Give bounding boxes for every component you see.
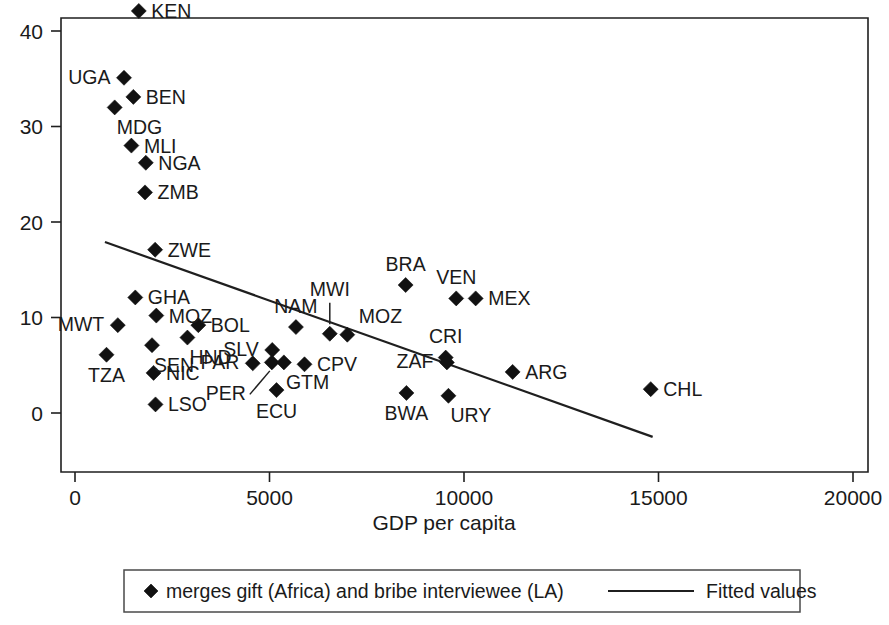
data-point-ken (131, 3, 146, 18)
x-axis-title: GDP per capita (372, 511, 516, 534)
y-tick-label-20: 20 (20, 211, 43, 234)
data-point-bra (398, 278, 413, 293)
data-point-moz (149, 308, 164, 323)
point-label-arg: ARG (525, 361, 567, 383)
x-tick-label-15000: 15000 (629, 486, 687, 509)
x-tick-label-10000: 10000 (435, 486, 493, 509)
point-label-chl: CHL (663, 378, 702, 400)
point-label-ben: BEN (146, 86, 186, 108)
data-point-chl (643, 382, 658, 397)
data-point-arg (505, 364, 520, 379)
point-label-cpv: CPV (317, 353, 357, 375)
chart-legend: merges gift (Africa) and bribe interview… (124, 570, 817, 612)
point-label-cri: CRI (429, 325, 463, 347)
data-point-labels: KENUGABENMDGMLINGAZMBZWEGHAMOZMWTBOLNAMH… (58, 0, 703, 426)
point-label-uga: UGA (68, 66, 110, 88)
data-point-tza (99, 347, 114, 362)
point-label-ury: URY (450, 404, 491, 426)
data-point-ben (126, 89, 141, 104)
point-label-lso: LSO (168, 393, 207, 415)
data-point-markers (99, 3, 658, 411)
data-point-zwe (148, 242, 163, 257)
point-label-mex: MEX (488, 287, 530, 309)
point-label-tza: TZA (88, 364, 125, 386)
data-point-mdg (107, 100, 122, 115)
legend-line-label: Fitted values (706, 580, 817, 602)
data-point-nam (288, 320, 303, 335)
point-label-bol: BOL (211, 314, 250, 336)
point-label-zwe: ZWE (168, 239, 211, 261)
data-point-hnd (180, 330, 195, 345)
x-axis-tick-labels: 05000100001500020000 (69, 486, 882, 509)
data-point-mwt (110, 318, 125, 333)
data-point-mex (468, 291, 483, 306)
x-axis-ticks (75, 472, 853, 482)
data-point-ury (441, 388, 456, 403)
x-tick-label-20000: 20000 (824, 486, 882, 509)
point-label-nga: NGA (158, 152, 200, 174)
data-point-bwa (399, 385, 414, 400)
point-label-ken: KEN (151, 0, 191, 22)
data-point-ecu (269, 383, 284, 398)
data-point-cpv (297, 357, 312, 372)
point-label-moz: MOZ (359, 305, 402, 327)
data-point-sen (145, 338, 160, 353)
x-tick-label-0: 0 (69, 486, 81, 509)
scatter-plot: 05000100001500020000 010203040 KENUGABEN… (0, 0, 889, 625)
point-label-mwt: MWT (58, 313, 105, 335)
data-point-uga (117, 70, 132, 85)
data-point-zmb (138, 185, 153, 200)
point-label-zmb: ZMB (158, 181, 199, 203)
chart-figure: 05000100001500020000 010203040 KENUGABEN… (0, 0, 889, 625)
data-point-ven (449, 291, 464, 306)
point-label-bra: BRA (386, 253, 426, 275)
data-point-nga (138, 155, 153, 170)
point-label-zaf: ZAF (397, 350, 434, 372)
point-label-ecu: ECU (256, 400, 297, 422)
y-tick-label-30: 30 (20, 115, 43, 138)
y-axis-ticks (51, 31, 61, 413)
y-axis-tick-labels: 010203040 (20, 20, 43, 425)
y-tick-label-10: 10 (20, 306, 43, 329)
point-label-ven: VEN (436, 266, 476, 288)
point-label-per: PER (206, 382, 246, 404)
point-label-bwa: BWA (385, 402, 429, 424)
point-label-moz: MOZ (169, 305, 212, 327)
point-label-par: PAR (201, 351, 240, 373)
data-point-mwi (322, 326, 337, 341)
legend-marker-label: merges gift (Africa) and bribe interview… (166, 580, 564, 602)
leader-line-per (250, 371, 270, 395)
data-point-mli (124, 138, 139, 153)
y-tick-label-40: 40 (20, 20, 43, 43)
point-label-mwi: MWI (310, 278, 350, 300)
data-point-gha (128, 290, 143, 305)
x-tick-label-5000: 5000 (246, 486, 293, 509)
data-point-lso (148, 397, 163, 412)
point-label-nic: NIC (166, 362, 200, 384)
y-tick-label-0: 0 (31, 402, 43, 425)
data-point-gtm (276, 355, 291, 370)
